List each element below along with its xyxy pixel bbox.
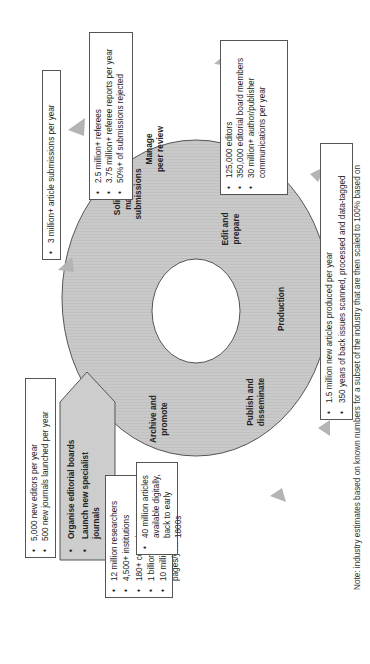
- callout-submissions: 3 million+ article submissions per year: [42, 70, 61, 260]
- callout-item: 3.75 million+ referee reports per year: [104, 38, 115, 194]
- callout-item: Launch new specialist journals: [80, 444, 102, 552]
- stage-peer-review: Manage peer review: [144, 114, 165, 184]
- callout-item: 30 million+ author/publisher communicati…: [246, 46, 268, 189]
- callout-peer-review: 2.5 million+ referees 3.75 million+ refe…: [89, 32, 133, 200]
- callout-edit: 125,000 editors 350,000 editorial board …: [220, 40, 288, 195]
- stage-line: Production: [276, 274, 287, 344]
- callout-item: 40 million articles available digitally,…: [140, 468, 184, 549]
- callout-item: 3 million+ article submissions per year: [46, 76, 57, 254]
- arrow-icon: [68, 118, 85, 136]
- callout-item: 1.5 million new articles produced per ye…: [324, 149, 335, 414]
- callout-item: 50%+ of submissions rejected: [115, 38, 126, 194]
- callout-new-editors: 5,000 new editors per year 500 new journ…: [25, 378, 56, 558]
- callout-item: 2.5 million+ referees: [93, 38, 104, 194]
- callout-item: 12 million researchers: [109, 481, 121, 592]
- callout-archive: 40 million articles available digitally,…: [136, 462, 178, 555]
- callout-item: 350,000 editorial board members: [235, 46, 246, 189]
- stage-line: submissions: [133, 154, 144, 234]
- stage-edit: Edit and prepare: [220, 194, 241, 264]
- callout-item: 125,000 editors: [224, 46, 235, 189]
- publishing-cycle-diagram: Solicit and manage submissions Manage pe…: [0, 0, 370, 664]
- stage-line: Manage: [144, 114, 155, 184]
- stage-line: peer review: [155, 114, 166, 184]
- callout-launch: Organise editorial boards Launch new spe…: [66, 402, 105, 552]
- callout-item: Organise editorial boards: [66, 402, 77, 552]
- stage-production: Production: [276, 274, 287, 344]
- stage-line: disseminate: [256, 362, 267, 442]
- callout-item: 5,000 new editors per year: [29, 384, 40, 552]
- footnote: Note: industry estimates based on known …: [352, 165, 363, 590]
- arrow-icon: [318, 420, 330, 436]
- stage-line: Publish and: [245, 362, 256, 442]
- stage-line: prepare: [231, 194, 242, 264]
- stage-publish: Publish and disseminate: [245, 362, 266, 442]
- stage-line: Edit and: [220, 194, 231, 264]
- callout-item: 4,500+ institutions: [121, 481, 133, 592]
- stage-archive: Archive and promote: [148, 384, 169, 454]
- stage-line: promote: [159, 384, 170, 454]
- callout-item: 500 new journals launched per year: [40, 384, 51, 552]
- callout-item: 350 years of back issues scanned, proces…: [337, 149, 348, 414]
- arrow-icon: [270, 488, 286, 502]
- callout-production: 1.5 million new articles produced per ye…: [320, 143, 353, 420]
- stage-line: Archive and: [148, 384, 159, 454]
